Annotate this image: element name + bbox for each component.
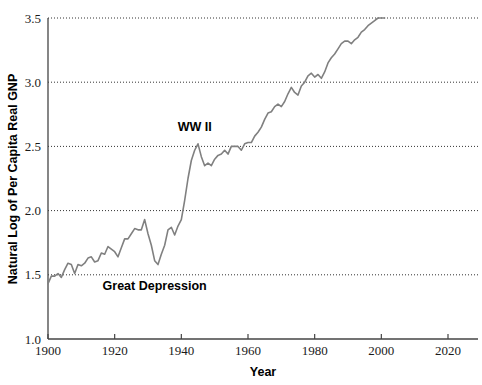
x-tick-label: 2020 bbox=[435, 343, 461, 358]
y-tick-label: 2.5 bbox=[25, 139, 41, 154]
gnp-line-chart: 1.01.52.02.53.03.5 190019201940196019802… bbox=[0, 0, 482, 385]
annotation-ww2: WW II bbox=[178, 120, 212, 134]
y-tick-label: 3.0 bbox=[25, 75, 41, 90]
annotation-great-depression: Great Depression bbox=[103, 279, 207, 293]
chart-background bbox=[0, 0, 482, 385]
y-tick-label: 2.0 bbox=[25, 203, 41, 218]
x-tick-label: 2000 bbox=[368, 343, 394, 358]
x-tick-label: 1900 bbox=[35, 343, 61, 358]
x-tick-label: 1920 bbox=[102, 343, 128, 358]
x-tick-label: 1980 bbox=[302, 343, 328, 358]
x-tick-label: 1960 bbox=[235, 343, 261, 358]
y-tick-label: 1.5 bbox=[25, 267, 41, 282]
chart-page: 1.01.52.02.53.03.5 190019201940196019802… bbox=[0, 0, 482, 385]
y-axis-title: Natural Log of Per Capita Real GNP bbox=[6, 74, 20, 284]
x-axis-title: Year bbox=[250, 365, 277, 379]
x-tick-label: 1940 bbox=[168, 343, 194, 358]
y-tick-label: 3.5 bbox=[25, 11, 41, 26]
